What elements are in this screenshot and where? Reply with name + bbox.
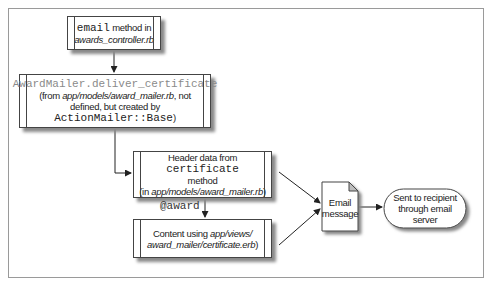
email-method-line1: email method in [77, 22, 151, 34]
header-code: certificate [166, 163, 239, 175]
content-line1: Content using app/views/ [153, 228, 252, 239]
deliver-line2: defined, but created by [70, 101, 160, 112]
email-method-box: email method in awards_controller.rb [67, 16, 161, 50]
deliver-line1-pre: (from [39, 90, 62, 101]
deliver-line1-post: , not [174, 90, 191, 101]
deliver-line3-post: ) [173, 112, 176, 123]
award-edge-label: @award [160, 200, 200, 212]
sent-line2: through email [398, 203, 452, 214]
sent-to-recipient-label: Sent to recipient through email server [384, 189, 466, 228]
deliver-line3-code: ActionMailer::Base [54, 112, 173, 124]
email-method-file: awards_controller.rb [74, 34, 154, 45]
deliver-line1-file: app/models/award_mailer.rb [62, 90, 174, 101]
header-pre: Header data from [168, 152, 237, 163]
header-line3-file: app/models/award_mailer.rb [151, 186, 263, 197]
deliver-certificate-box: AwardMailer.deliver_certificate (from ap… [19, 74, 211, 128]
email-method-code: email [77, 22, 110, 34]
header-line3: (in app/models/award_mailer.rb) [139, 186, 266, 197]
email-message-line1: Email [329, 197, 351, 208]
content-file1: app/views/ [210, 228, 252, 239]
email-method-text: method in [110, 22, 151, 33]
content-file2: award_mailer/certificate.erb [147, 239, 255, 250]
content-line2: award_mailer/certificate.erb) [147, 239, 258, 250]
sent-line3: server [413, 214, 438, 225]
header-line3-post: ) [263, 186, 266, 197]
deliver-line3: ActionMailer::Base) [54, 112, 176, 124]
content-post: ) [255, 239, 258, 250]
header-data-box: Header data from certificate method (in … [133, 151, 272, 198]
header-line1: Header data from certificate [134, 152, 271, 175]
header-line2: method [188, 175, 218, 186]
sent-line1: Sent to recipient [393, 192, 457, 203]
email-message-line2: message [322, 208, 358, 219]
deliver-line1: (from app/models/award_mailer.rb, not [39, 90, 191, 101]
header-line3-pre: (in [139, 186, 151, 197]
deliver-certificate-code: AwardMailer.deliver_certificate [13, 79, 218, 90]
content-pre: Content using [153, 228, 210, 239]
content-box: Content using app/views/ award_mailer/ce… [133, 219, 272, 258]
email-message-label: Email message [322, 188, 358, 228]
